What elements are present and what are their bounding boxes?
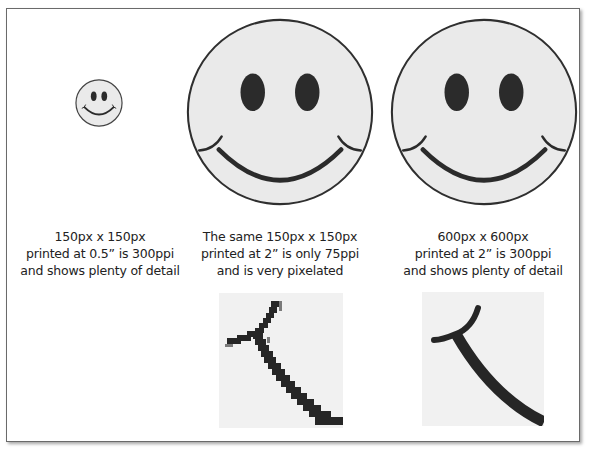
smiley-face-icon xyxy=(186,18,374,206)
caption-line: and shows plenty of detail xyxy=(0,262,200,279)
caption-line: 150px x 150px xyxy=(0,228,200,245)
sharp-smile-detail-icon xyxy=(422,292,544,426)
detail-crop-pixelated xyxy=(219,293,343,428)
caption-line: printed at 0.5” is 300ppi xyxy=(0,245,200,262)
caption-small: 150px x 150px printed at 0.5” is 300ppi … xyxy=(0,228,200,279)
caption-line: The same 150px x 150px xyxy=(180,228,380,245)
caption-line: printed at 2” is only 75ppi xyxy=(180,245,380,262)
smiley-sharp-large xyxy=(390,18,578,206)
smiley-pixelated-large xyxy=(186,18,374,206)
pixelated-smile-detail-icon xyxy=(219,293,343,428)
caption-line: 600px x 600px xyxy=(383,228,583,245)
caption-pixelated: The same 150px x 150px printed at 2” is … xyxy=(180,228,380,279)
caption-sharp: 600px x 600px printed at 2” is 300ppi an… xyxy=(383,228,583,279)
detail-crop-sharp xyxy=(422,292,544,426)
smiley-small xyxy=(75,79,123,127)
caption-line: and is very pixelated xyxy=(180,262,380,279)
caption-line: printed at 2” is 300ppi xyxy=(383,245,583,262)
caption-line: and shows plenty of detail xyxy=(383,262,583,279)
smiley-face-icon xyxy=(75,79,123,127)
smiley-face-icon xyxy=(390,18,578,206)
